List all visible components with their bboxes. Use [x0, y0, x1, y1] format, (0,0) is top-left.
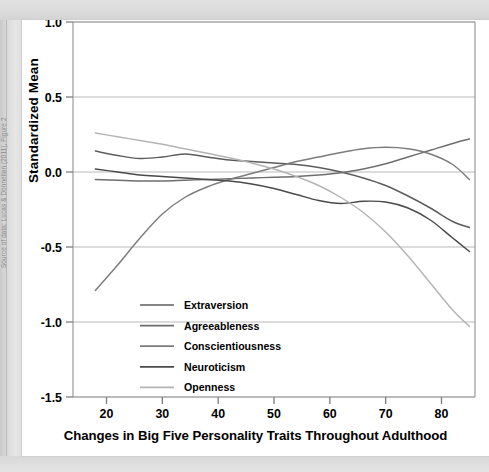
scanned-page-frame: Source of data: Lucas & Donnellan (2011)…: [0, 0, 489, 472]
series-lines: [95, 133, 469, 327]
y-tick-label: 1.0: [45, 20, 62, 30]
y-tick-label: -0.5: [41, 241, 62, 255]
chart-legend: ExtraversionAgreeablenessConscientiousne…: [140, 299, 281, 393]
series-line-openness: [95, 133, 469, 327]
x-tick-label: 20: [100, 407, 114, 421]
y-axis-ticks: 1.00.50.0-0.5-1.0-1.5: [41, 20, 73, 405]
x-tick-label: 70: [379, 407, 393, 421]
legend-label-neuroticism: Neuroticism: [184, 361, 245, 373]
y-tick-label: 0.5: [45, 91, 62, 105]
y-tick-label: -1.0: [41, 316, 62, 330]
legend-label-conscientiousness: Conscientiousness: [184, 340, 281, 352]
page-bottom-margin: [0, 456, 489, 472]
legend-label-openness: Openness: [184, 381, 235, 393]
x-tick-label: 80: [435, 407, 449, 421]
series-line-conscientiousness: [95, 147, 469, 290]
x-axis-ticks: 20304050607080: [100, 397, 449, 421]
series-line-agreeableness: [95, 139, 469, 181]
y-tick-label: -1.5: [41, 391, 62, 405]
x-axis-title: Changes in Big Five Personality Traits T…: [22, 428, 489, 443]
legend-label-agreeableness: Agreeableness: [184, 320, 259, 332]
page-top-margin: [0, 0, 489, 20]
line-chart-plot: 1.00.50.0-0.5-1.0-1.5 20304050607080 Ext…: [22, 20, 489, 456]
x-tick-label: 50: [267, 407, 281, 421]
x-tick-label: 60: [323, 407, 337, 421]
source-credit: Source of data: Lucas & Donnellan (2011)…: [0, 118, 9, 268]
figure-card: Standardized Mean 1.00.50.0-0.5-1.0-1.5 …: [22, 20, 489, 456]
legend-label-extraversion: Extraversion: [184, 299, 248, 311]
x-tick-label: 30: [155, 407, 169, 421]
x-tick-label: 40: [211, 407, 225, 421]
series-line-extraversion: [95, 151, 469, 228]
y-tick-label: 0.0: [45, 166, 62, 180]
